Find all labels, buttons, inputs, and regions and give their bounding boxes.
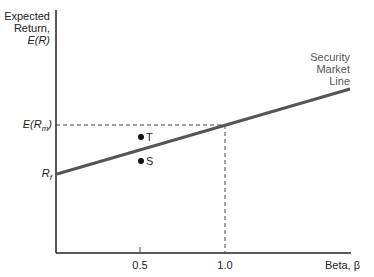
sml-label-line1: Security <box>280 51 350 63</box>
chart-canvas <box>0 0 374 277</box>
point-t-label: T <box>146 131 153 143</box>
y-axis-label-line3: E(R) <box>0 34 50 46</box>
x-tick-1-0: 1.0 <box>210 259 240 271</box>
x-tick-0-5: 0.5 <box>125 259 155 271</box>
point-s-label: S <box>146 155 153 167</box>
rf-main: R <box>42 167 50 179</box>
rf-sub: f <box>50 173 52 182</box>
erm-tick-label: E(Rm) <box>2 118 52 135</box>
security-market-line <box>57 89 350 174</box>
erm-prefix: E(R <box>23 118 42 130</box>
sml-label-line3: Line <box>280 75 350 87</box>
point-t-marker <box>138 134 144 140</box>
y-axis-label-line2: Return, <box>0 22 50 34</box>
point-s-marker <box>138 158 144 164</box>
sml-label-line2: Market <box>280 63 350 75</box>
erm-suffix: ) <box>48 118 52 130</box>
x-axis-label: Beta, β <box>300 259 360 271</box>
sml-label: Security Market Line <box>280 51 350 87</box>
y-axis-label-line1: Expected <box>0 10 50 22</box>
y-axis-label: Expected Return, E(R) <box>0 10 50 46</box>
rf-tick-label: Rf <box>2 167 52 184</box>
